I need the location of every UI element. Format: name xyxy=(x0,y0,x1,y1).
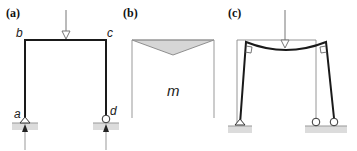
structural-diagram xyxy=(0,0,357,151)
pin-support-c-icon xyxy=(235,119,245,125)
pin-support-icon xyxy=(20,117,30,123)
ground-c-left-icon xyxy=(228,126,252,133)
roller-displaced-icon xyxy=(330,118,338,126)
panel-a-frame xyxy=(12,10,119,150)
panel-c-deflected-shape xyxy=(228,10,347,133)
moment-triangle xyxy=(132,40,214,55)
frame-members xyxy=(25,40,106,118)
deformed-frame xyxy=(240,42,334,124)
roller-support-icon xyxy=(102,115,110,123)
ground-c-right-icon xyxy=(305,126,347,133)
panel-b-moment-diagram xyxy=(132,40,214,118)
roller-original-icon xyxy=(312,118,320,126)
